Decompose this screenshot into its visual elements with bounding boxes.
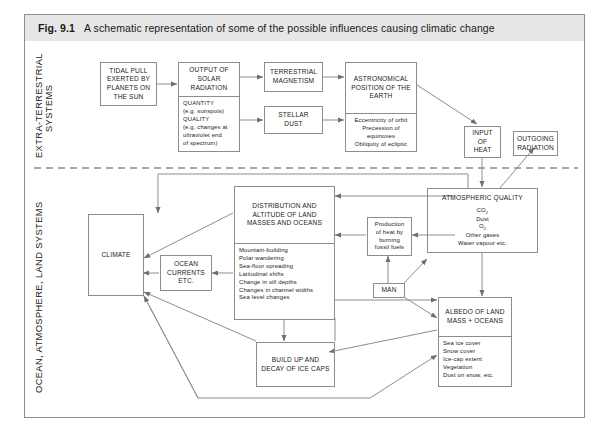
box-ice-caps-title: BUILD UP AND DECAY OF ICE CAPS bbox=[257, 343, 334, 386]
box-production-of-heat-title: Production of heat by burning fossil fue… bbox=[368, 218, 411, 255]
box-climate-title: CLIMATE bbox=[89, 215, 143, 295]
box-solar-radiation: OUTPUT OF SOLAR RADIATION QUANTITY (e.g.… bbox=[178, 62, 240, 152]
box-solar-radiation-details: QUANTITY (e.g. sunspots) QUALITY (e.g. c… bbox=[179, 96, 239, 152]
box-atmospheric-quality: ATMOSPHERIC QUALITY CO2 Dust O2 Other ga… bbox=[427, 188, 538, 253]
detail-line: Precession of equinoxes bbox=[350, 125, 412, 141]
box-tidal-pull-title: TIDAL PULL EXERTED BY PLANETS ON THE SUN bbox=[101, 63, 156, 105]
detail-line: Sea ice cover bbox=[443, 340, 507, 348]
box-man: MAN bbox=[373, 283, 405, 298]
box-stellar-dust-title: STELLAR DUST bbox=[265, 107, 322, 133]
detail-line: Snow cover bbox=[443, 348, 507, 356]
box-input-of-heat-title: INPUT OF HEAT bbox=[465, 127, 500, 157]
box-albedo-title: ALBEDO OF LAND MASS + OCEANS bbox=[439, 298, 511, 336]
box-production-of-heat: Production of heat by burning fossil fue… bbox=[367, 217, 412, 256]
box-outgoing-radiation-title: OUTGOING RADIATION bbox=[514, 132, 557, 155]
box-man-title: MAN bbox=[374, 284, 404, 297]
box-terrestrial-magnetism: TERRESTRIAL MAGNETISM bbox=[264, 62, 323, 92]
detail-line: Sea-floor spreading bbox=[239, 263, 330, 271]
detail-line: QUALITY bbox=[183, 116, 235, 124]
box-albedo: ALBEDO OF LAND MASS + OCEANS Sea ice cov… bbox=[438, 297, 512, 387]
box-land-masses-title: DISTRIBUTION AND ALTITUDE OF LAND MASSES… bbox=[235, 187, 334, 243]
detail-line: Water vapour etc. bbox=[432, 240, 533, 248]
detail-line: CO2 bbox=[432, 207, 533, 216]
box-ice-caps: BUILD UP AND DECAY OF ICE CAPS bbox=[256, 342, 335, 387]
detail-line: Sea level changes bbox=[239, 294, 330, 302]
detail-line: Changes in channel widths bbox=[239, 287, 330, 295]
box-solar-radiation-title: OUTPUT OF SOLAR RADIATION bbox=[179, 63, 239, 96]
detail-line: of spectrum) bbox=[183, 140, 235, 148]
detail-line: Eccentricity of orbit bbox=[350, 117, 412, 125]
detail-line: QUANTITY bbox=[183, 100, 235, 108]
detail-line: O2 bbox=[432, 223, 533, 232]
box-astronomical-position-details: Eccentricity of orbit Precession of equi… bbox=[346, 113, 416, 152]
detail-line: Ice-cap extent bbox=[443, 356, 507, 364]
box-ocean-currents-title: OCEAN CURRENTS ETC. bbox=[161, 256, 211, 290]
detail-line: ultraviolet end bbox=[183, 132, 235, 140]
box-astronomical-position: ASTRONOMICAL POSITION OF THE EARTH Eccen… bbox=[345, 62, 417, 152]
box-tidal-pull: TIDAL PULL EXERTED BY PLANETS ON THE SUN bbox=[100, 62, 157, 106]
detail-line: Vegetation bbox=[443, 364, 507, 372]
box-terrestrial-magnetism-title: TERRESTRIAL MAGNETISM bbox=[265, 63, 322, 91]
box-input-of-heat: INPUT OF HEAT bbox=[464, 126, 501, 158]
detail-line: Obliquity of ecliptic bbox=[350, 141, 412, 149]
detail-line: Other gases bbox=[432, 232, 533, 240]
box-outgoing-radiation: OUTGOING RADIATION bbox=[513, 131, 558, 156]
box-atmospheric-quality-details: CO2 Dust O2 Other gases Water vapour etc… bbox=[428, 206, 537, 249]
box-ocean-currents: OCEAN CURRENTS ETC. bbox=[160, 255, 212, 291]
detail-line: Change in sill depths bbox=[239, 279, 330, 287]
box-land-masses: DISTRIBUTION AND ALTITUDE OF LAND MASSES… bbox=[234, 186, 335, 320]
detail-line: Polar wandering bbox=[239, 255, 330, 263]
box-stellar-dust: STELLAR DUST bbox=[264, 106, 323, 134]
box-land-masses-details: Mountain-building Polar wandering Sea-fl… bbox=[235, 243, 334, 320]
detail-line: Dust on snow, etc. bbox=[443, 372, 507, 380]
box-atmospheric-quality-title: ATMOSPHERIC QUALITY bbox=[428, 189, 537, 206]
detail-line: (e.g. sunspots) bbox=[183, 108, 235, 116]
box-astronomical-position-title: ASTRONOMICAL POSITION OF THE EARTH bbox=[346, 63, 416, 113]
detail-line: Latitudinal shifts bbox=[239, 271, 330, 279]
box-climate: CLIMATE bbox=[88, 214, 144, 296]
detail-line: Dust bbox=[432, 216, 533, 224]
figure-page: Fig. 9.1 A schematic representation of s… bbox=[0, 0, 609, 433]
detail-line: Mountain-building bbox=[239, 247, 330, 255]
detail-line: (e.g. changes at bbox=[183, 124, 235, 132]
box-albedo-details: Sea ice cover Snow cover Ice-cap extent … bbox=[439, 336, 511, 387]
